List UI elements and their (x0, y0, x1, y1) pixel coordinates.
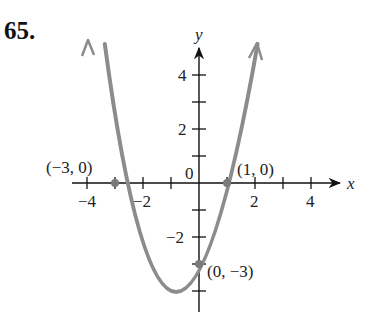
point-label-neg3-0: (−3, 0) (46, 158, 92, 177)
point-label-1-0: (1, 0) (237, 160, 274, 179)
x-tick-label-neg2: −2 (133, 192, 151, 211)
origin-label: 0 (185, 164, 194, 183)
x-tick-label-4: 4 (306, 192, 315, 211)
point-neg3-0 (111, 179, 119, 187)
y-tick-label-4: 4 (178, 66, 187, 85)
point-0-neg3 (195, 260, 203, 268)
y-tick-label-neg2: −2 (166, 228, 184, 247)
x-tick-label-neg4: −4 (78, 192, 97, 211)
y-tick-label-2: 2 (178, 120, 187, 139)
point-label-0-neg3: (0, −3) (207, 262, 253, 281)
x-axis-label: x (346, 174, 355, 193)
curve-arrow-left-icon (82, 40, 94, 56)
x-tick-label-2: 2 (250, 192, 259, 211)
parabola-graph: y x −4 −2 2 4 4 2 −2 0 (−3, 0) (1, 0) (0… (0, 0, 374, 329)
point-1-0 (223, 179, 231, 187)
y-axis-label: y (193, 25, 203, 44)
